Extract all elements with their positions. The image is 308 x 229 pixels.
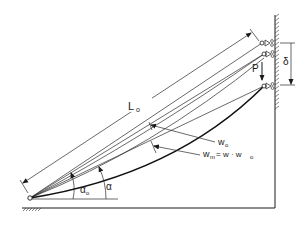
wall-hatch-mark (275, 62, 279, 65)
bottom-roller-support (262, 83, 274, 90)
svg-text:= w · w: = w · w (216, 150, 242, 159)
svg-text:L: L (128, 100, 134, 112)
wall-hatch-mark (275, 94, 279, 97)
wall-hatch-mark (275, 42, 279, 45)
column-intermediate-chord (30, 54, 264, 198)
wall-hatch-mark (275, 38, 279, 41)
wall-hatch-mark (275, 74, 279, 77)
wall-hatch-mark (275, 46, 279, 49)
svg-text:m: m (210, 154, 215, 160)
wall-hatch-mark (275, 26, 279, 29)
wall-hatch-mark (275, 54, 279, 57)
total-deflection-tick (151, 141, 156, 153)
wall-hatch-mark (275, 22, 279, 25)
wall-hatch-mark (275, 82, 279, 85)
top-roller-support (260, 40, 273, 47)
wall-hatch-mark (275, 70, 279, 73)
delta-label: δ (283, 56, 289, 67)
total-deflection-label: w m = w · w o (202, 149, 254, 160)
column-loaded-chord-2 (30, 58, 264, 198)
svg-text:w: w (217, 137, 225, 147)
svg-text:o: o (225, 142, 229, 148)
wall-hatch-mark (275, 106, 279, 109)
base-pin-support (28, 196, 32, 200)
wall-hatch-mark (275, 14, 279, 17)
column-diagram: P δ L o w o w m = w · w o α o α (0, 0, 308, 229)
svg-text:w: w (202, 149, 210, 159)
wall-hatch-mark (275, 30, 279, 33)
final-angle-label: α (106, 181, 112, 192)
wall-hatch-mark (275, 50, 279, 53)
svg-text:o: o (86, 190, 90, 196)
wall-hatch (275, 14, 279, 109)
wall-hatch-mark (275, 34, 279, 37)
final-angle-arc (99, 167, 106, 199)
middle-roller-support (262, 51, 274, 58)
wall-hatch-mark (275, 86, 279, 89)
length-dimension-ext-top (250, 29, 259, 41)
total-deflection-leader (154, 146, 200, 155)
wall-hatch-mark (275, 98, 279, 101)
column-initial-chord (30, 43, 262, 198)
wall-hatch-mark (275, 18, 279, 21)
wall-hatch-mark (275, 66, 279, 69)
wall-hatch-mark (275, 90, 279, 93)
load-label: P (252, 63, 259, 74)
svg-text:o: o (136, 106, 140, 113)
wall-hatch-mark (275, 58, 279, 61)
initial-deflection-label: w o (217, 137, 229, 148)
svg-text:o: o (250, 154, 254, 160)
wall-hatch-mark (275, 102, 279, 105)
wall-hatch-mark (275, 78, 279, 81)
